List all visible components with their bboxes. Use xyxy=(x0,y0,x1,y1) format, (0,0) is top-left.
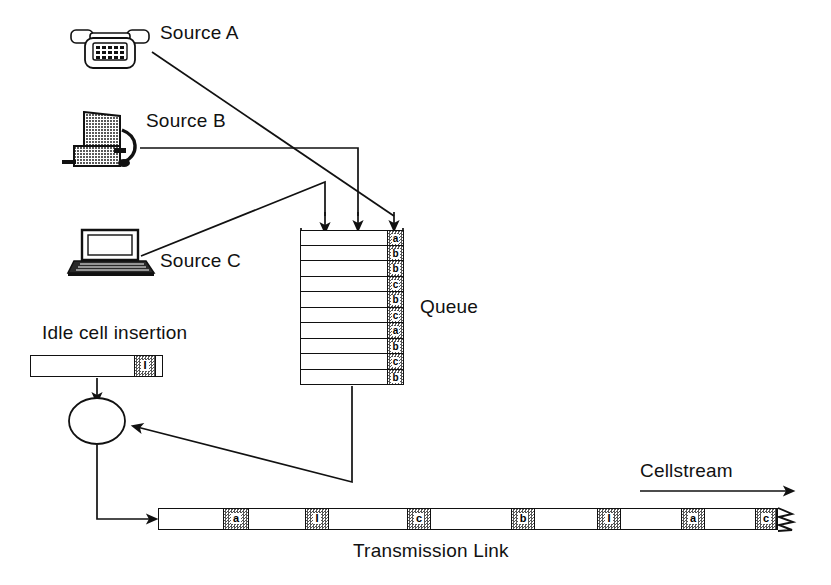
queue-cell-label: a xyxy=(392,326,400,336)
idle-cell-bar: I xyxy=(30,355,163,377)
laptop-computer-icon xyxy=(66,228,156,278)
queue-row: a xyxy=(300,323,404,339)
queue-cell-label: c xyxy=(392,357,400,367)
queue-cell-label: c xyxy=(392,311,400,321)
queue-cell: b xyxy=(387,370,403,385)
queue-row: b xyxy=(300,261,404,277)
queue-cell: c xyxy=(387,277,403,292)
queue-row: b xyxy=(300,246,404,262)
queue-row: c xyxy=(300,354,404,370)
queue-row: c xyxy=(300,308,404,324)
multiplexer-circle-icon xyxy=(69,398,125,444)
telephone-icon xyxy=(68,22,152,74)
link-cell: I xyxy=(597,509,621,529)
link-cell: I xyxy=(305,509,329,529)
link-cell: a xyxy=(681,509,705,529)
queue-cell-label: b xyxy=(391,249,399,259)
queue-cell-label: c xyxy=(392,280,400,290)
link-cell: a xyxy=(223,509,249,529)
source-a-label: Source A xyxy=(160,22,239,44)
queue-cell: b xyxy=(387,292,403,307)
diagram-canvas: Source A Source B Source C Queue Idle ce… xyxy=(0,0,831,585)
source-c-label: Source C xyxy=(160,250,241,272)
multiplexer-output-connector xyxy=(97,445,152,519)
source-c-connector xyxy=(141,182,325,256)
source-b-label: Source B xyxy=(146,110,226,132)
queue-cell: b xyxy=(387,339,403,354)
queue-cell: b xyxy=(387,261,403,276)
idle-cell: I xyxy=(134,356,156,376)
queue-row: a xyxy=(300,230,404,246)
link-cell-label: I xyxy=(313,513,320,524)
queue-cell-label: b xyxy=(391,264,399,274)
queue-cell: a xyxy=(387,323,403,338)
link-cell-label: c xyxy=(414,513,424,524)
queue-cell: b xyxy=(387,246,403,261)
queue-cell-label: b xyxy=(391,295,399,305)
link-cell-label: a xyxy=(688,513,698,524)
queue-cell: a xyxy=(387,231,403,245)
transmission-link-label: Transmission Link xyxy=(353,540,509,562)
queue-row: c xyxy=(300,277,404,293)
queue-cell-label: a xyxy=(392,234,400,244)
queue-row: b xyxy=(300,370,404,386)
connector-layer xyxy=(0,0,831,585)
link-cell: c xyxy=(755,509,777,529)
queue-cell-label: b xyxy=(391,342,399,352)
queue-cell-label: b xyxy=(391,373,399,383)
link-cell-label: c xyxy=(761,513,771,524)
link-cell-label: I xyxy=(605,513,612,524)
link-cell-label: a xyxy=(231,513,241,524)
queue-output-connector xyxy=(137,386,352,482)
queue-row: b xyxy=(300,339,404,355)
fax-machine-icon xyxy=(62,108,148,170)
idle-insertion-label: Idle cell insertion xyxy=(42,322,187,344)
queue-row: b xyxy=(300,292,404,308)
queue-label: Queue xyxy=(420,296,478,318)
idle-cell-label: I xyxy=(141,360,148,371)
queue-cell: c xyxy=(387,354,403,369)
link-cell: b xyxy=(511,509,535,529)
link-cell: c xyxy=(407,509,431,529)
cellstream-label: Cellstream xyxy=(640,460,733,482)
link-cell-label: b xyxy=(518,513,529,524)
queue-cell: c xyxy=(387,308,403,323)
transmission-link-bar: aIcbIac xyxy=(158,508,778,530)
link-torn-edge-icon xyxy=(778,508,793,531)
queue-buffer: abbcbcabcb xyxy=(300,230,404,385)
